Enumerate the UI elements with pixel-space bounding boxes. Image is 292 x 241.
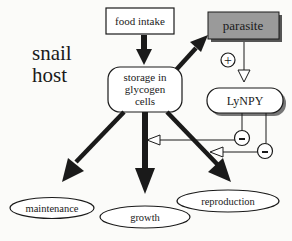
storage-to-parasite-arrow (176, 35, 208, 70)
food-intake-node: food intake (106, 8, 174, 34)
storage-glycogen-node: storage in glycogen cells (108, 67, 182, 112)
svg-text:LyNPY: LyNPY (227, 94, 264, 108)
svg-text:+: + (224, 53, 232, 68)
svg-text:food intake: food intake (115, 15, 165, 27)
svg-text:reproduction: reproduction (201, 196, 255, 207)
minus-sign-icon (235, 131, 250, 146)
growth-node: growth (100, 206, 190, 228)
storage-to-maintenance-arrow (62, 112, 124, 182)
svg-text:glycogen: glycogen (125, 83, 166, 95)
svg-text:snail: snail (32, 41, 72, 65)
svg-text:host: host (32, 63, 67, 87)
food-to-storage-arrow (136, 35, 152, 65)
lynpy-node: LyNPY (207, 88, 286, 116)
plus-sign-icon: + (221, 53, 235, 68)
diagram-canvas: snail host food intake parasite storage … (0, 0, 292, 241)
storage-to-growth-arrow (135, 112, 155, 194)
snail-host-title: snail host (32, 41, 72, 87)
svg-text:parasite: parasite (223, 18, 264, 33)
storage-to-reproduction-arrow (167, 112, 231, 182)
svg-text:cells: cells (135, 95, 155, 107)
parasite-to-lynpy-arrow (238, 42, 250, 82)
svg-text:storage in: storage in (123, 71, 167, 83)
maintenance-node: maintenance (10, 198, 94, 219)
minus-sign-icon (258, 144, 273, 159)
parasite-node: parasite (208, 12, 282, 42)
svg-text:growth: growth (130, 212, 160, 223)
svg-text:maintenance: maintenance (25, 203, 78, 214)
reproduction-node: reproduction (177, 190, 279, 212)
